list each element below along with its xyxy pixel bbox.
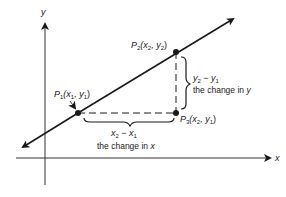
run-brace bbox=[84, 118, 174, 126]
rise-brace bbox=[181, 57, 190, 109]
run-caption: the change in x bbox=[97, 141, 155, 151]
y-axis-label: y bbox=[40, 7, 46, 17]
point-p1-marker bbox=[75, 110, 81, 116]
x-axis-label: x bbox=[274, 153, 280, 163]
point-p2-label: P2(x2, y2) bbox=[131, 40, 167, 51]
rise-caption: the change in y bbox=[193, 85, 251, 95]
point-p2-marker bbox=[173, 49, 179, 55]
p1-pointer bbox=[70, 101, 75, 108]
point-p3-marker bbox=[173, 110, 179, 116]
run-expression: x2 − x1 bbox=[110, 128, 138, 139]
rise-expression: y2 − y1 bbox=[192, 73, 220, 84]
point-p1-label: P1(x1, y1) bbox=[54, 89, 90, 100]
slope-diagram: y x P1(x1, y1) P2(x2, y2) P3(x2, y1) y2 … bbox=[0, 0, 286, 197]
point-p3-label: P3(x2, y1) bbox=[180, 114, 216, 125]
x-axis: x bbox=[16, 153, 280, 163]
